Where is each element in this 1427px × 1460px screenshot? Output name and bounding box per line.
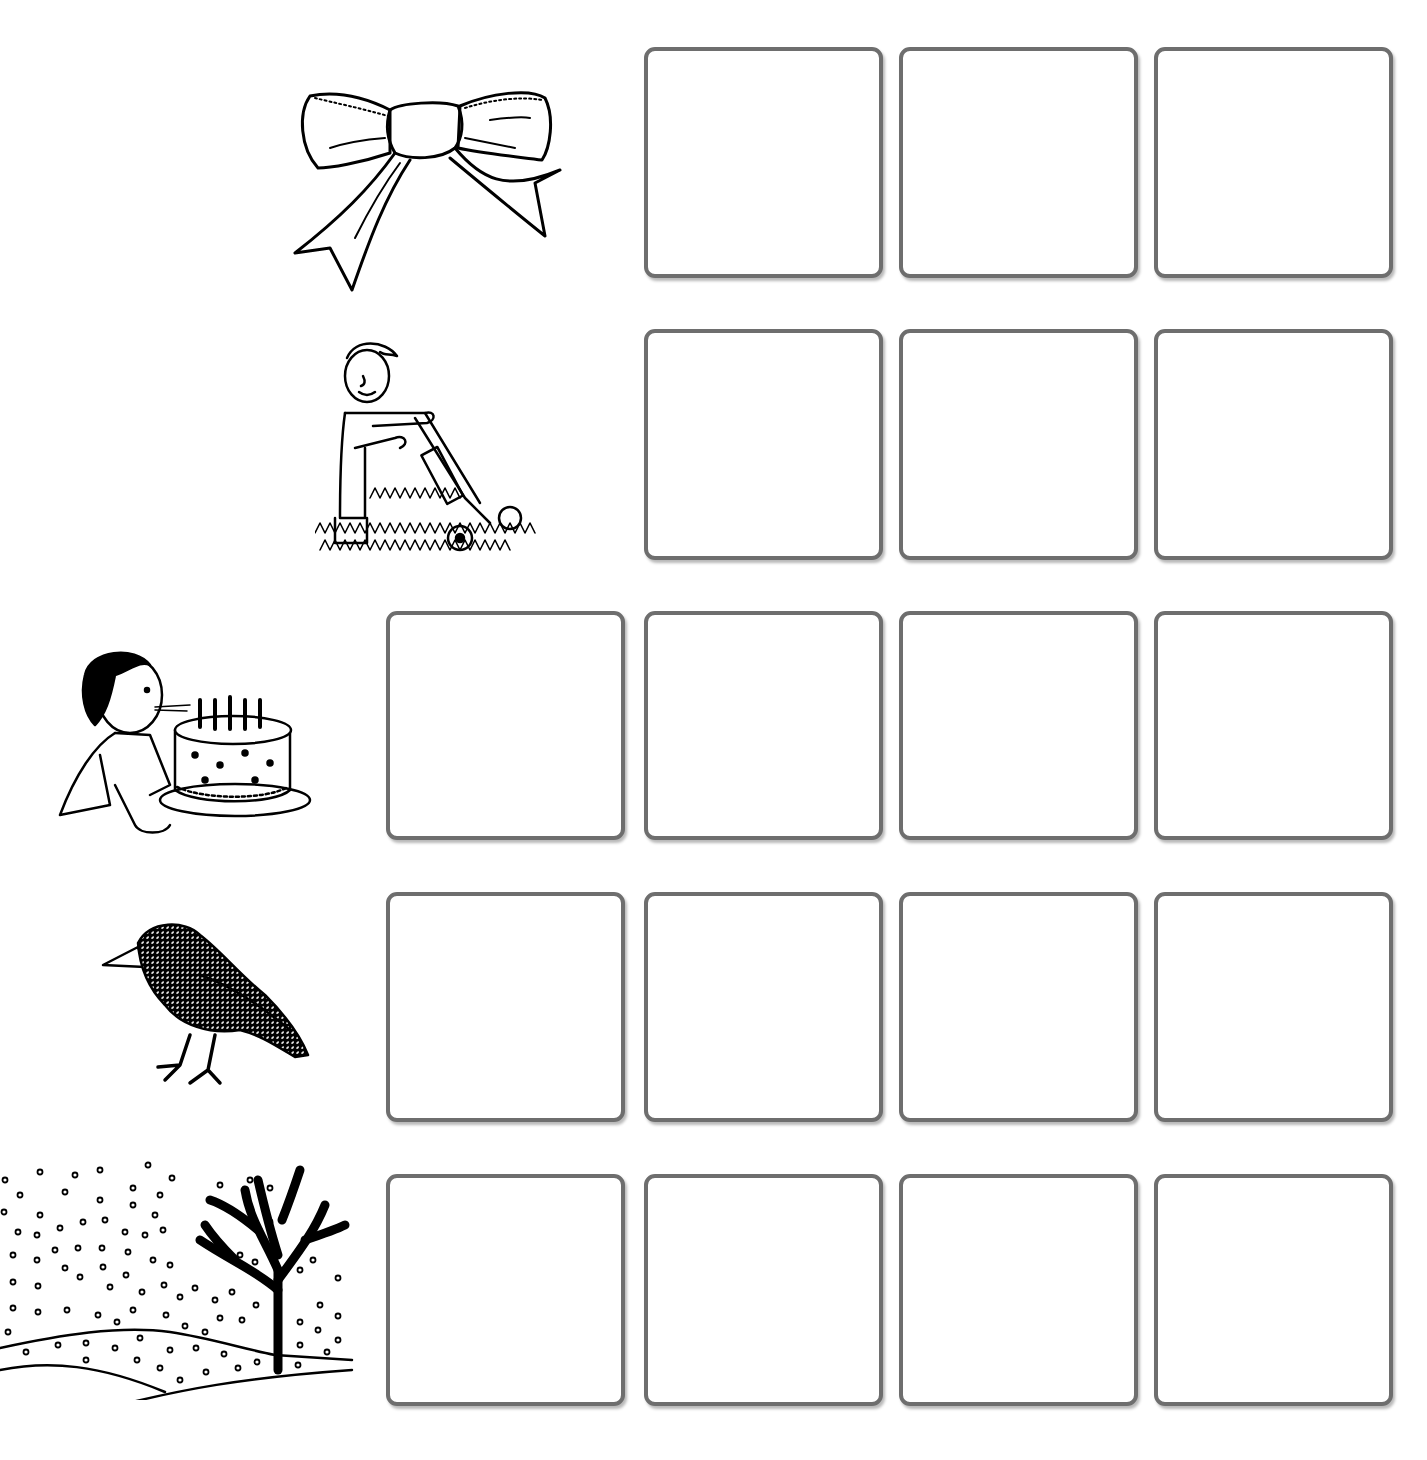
sound-box[interactable] [1154,1174,1393,1406]
sound-box[interactable] [899,329,1138,560]
sound-box[interactable] [644,329,883,560]
bow-icon [290,68,565,293]
sound-box[interactable] [644,47,883,278]
sound-box[interactable] [899,1174,1138,1406]
girl-blowing-candles-icon [55,645,315,845]
sound-box[interactable] [386,611,625,840]
snowy-tree-icon [0,1160,360,1400]
sound-box[interactable] [386,892,625,1122]
sound-box[interactable] [1154,611,1393,840]
man-mowing-lawn-icon [315,338,540,563]
sound-box[interactable] [644,892,883,1122]
sound-box[interactable] [1154,329,1393,560]
crow-icon [100,905,315,1095]
sound-box[interactable] [899,611,1138,840]
sound-box[interactable] [1154,47,1393,278]
sound-box[interactable] [386,1174,625,1406]
sound-box[interactable] [1154,892,1393,1122]
sound-box[interactable] [644,1174,883,1406]
sound-box[interactable] [644,611,883,840]
sound-box[interactable] [899,47,1138,278]
sound-box[interactable] [899,892,1138,1122]
